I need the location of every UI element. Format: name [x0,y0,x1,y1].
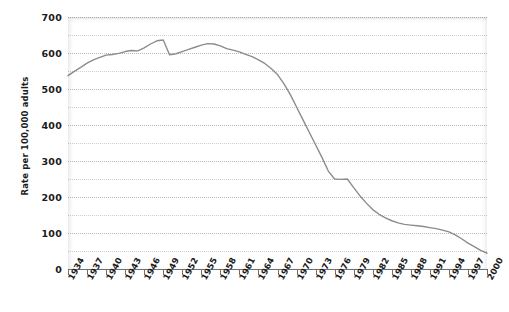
line-series-svg [68,17,487,269]
y-tick-label: 600 [28,48,62,59]
chart-figure: Rate per 100,000 adults 0100200300400500… [0,0,509,312]
y-tick-label: 300 [28,156,62,167]
x-tick-label: 2000 [485,256,505,282]
y-tick-label: 200 [28,192,62,203]
y-tick-label: 100 [28,228,62,239]
plot-area [68,17,487,269]
series-line [68,40,487,253]
y-tick-label: 400 [28,120,62,131]
y-tick-label: 500 [28,84,62,95]
y-axis-tick-labels: 0100200300400500600700 [24,17,62,269]
y-tick-label: 0 [28,264,62,275]
y-tick-label: 700 [28,12,62,23]
